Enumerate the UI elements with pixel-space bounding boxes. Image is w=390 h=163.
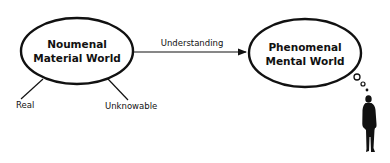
edge-understanding: Understanding [133,38,246,52]
understanding-label: Understanding [161,38,224,48]
thought-bubbles-icon [354,74,368,91]
noumenal-label-line1: Noumenal [47,38,107,50]
node-noumenal-material-world: Noumenal Material World [21,18,133,84]
phenomenal-label-line2: Mental World [265,55,344,67]
noumenal-label-line2: Material World [33,52,121,64]
noumenal-ellipse [21,18,133,84]
unknowable-connector-line [108,79,128,100]
person-silhouette-icon [362,95,376,152]
real-connector-line [21,79,43,99]
diagram-canvas: Noumenal Material World Real Unknowable … [0,0,390,163]
node-phenomenal-mental-world: Phenomenal Mental World [249,19,361,87]
attribute-unknowable-label: Unknowable [105,101,157,111]
phenomenal-ellipse [249,19,361,87]
attribute-real-label: Real [16,100,34,110]
phenomenal-label-line1: Phenomenal [268,41,341,53]
